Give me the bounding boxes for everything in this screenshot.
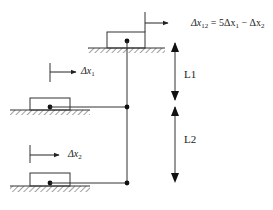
bottom-ground-hatch <box>10 186 90 192</box>
dx1-sub: 1 <box>91 70 95 78</box>
middle-ground-hatch <box>10 110 90 115</box>
lever-diagram <box>0 0 273 210</box>
dimension-L2 <box>171 106 179 183</box>
eq-rhs-sub2: 2 <box>261 22 265 30</box>
L1-down-arrowhead-icon <box>171 91 179 101</box>
L2-up-arrowhead-icon <box>171 106 179 116</box>
eq-rhs-a: = 5Δx <box>211 17 236 28</box>
L2-label: L2 <box>184 134 196 145</box>
L1-up-arrowhead-icon <box>171 42 179 52</box>
dx2-sub: 2 <box>78 153 82 161</box>
dx1-symbol: Δx <box>81 65 91 76</box>
middle-rod-joint <box>125 105 130 110</box>
eq-lhs-sub: 12 <box>201 22 208 30</box>
middle-block <box>10 63 129 115</box>
dimension-L1 <box>171 42 179 101</box>
top-block <box>88 12 168 53</box>
eq-rhs-b: − Δx <box>239 17 261 28</box>
bottom-rod-joint <box>125 181 130 186</box>
output-equation: Δx12 = 5Δx1 − Δx2 <box>191 18 264 30</box>
L1-label: L1 <box>184 69 196 80</box>
dx2-label: Δx2 <box>68 149 82 161</box>
dx2-symbol: Δx <box>68 148 78 159</box>
eq-lhs-symbol: Δx <box>191 17 201 28</box>
dx1-label: Δx1 <box>81 66 95 78</box>
L2-down-arrowhead-icon <box>171 173 179 183</box>
